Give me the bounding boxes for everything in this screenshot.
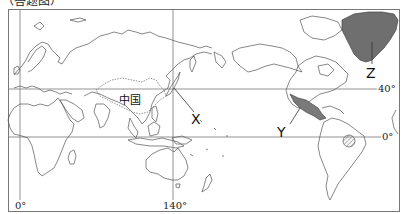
novaya-zemlya — [70, 18, 86, 22]
tasmania — [176, 184, 180, 188]
label-lon-0: 0° — [14, 200, 27, 211]
new-zealand — [202, 174, 212, 192]
label-x: X — [191, 111, 201, 127]
leader-y — [290, 108, 300, 124]
label-y: Y — [277, 124, 286, 140]
canada-islands — [300, 16, 342, 40]
caribbean — [322, 106, 344, 114]
europe-coast — [14, 30, 212, 75]
madagascar — [68, 150, 76, 164]
arabia — [60, 100, 84, 122]
world-map — [0, 0, 408, 214]
india — [94, 104, 110, 128]
greenland-region-z — [342, 12, 398, 62]
scandinavia — [28, 46, 46, 72]
philippines — [152, 106, 158, 122]
label-z: Z — [366, 65, 376, 81]
southeast-asia — [128, 118, 138, 138]
sakhalin — [190, 56, 196, 72]
alaska — [232, 44, 302, 72]
australia — [146, 148, 188, 180]
hudson-bay — [318, 64, 334, 76]
label-lat-40: 40° — [377, 83, 397, 94]
leader-x — [174, 88, 194, 112]
mediterranean — [14, 86, 72, 94]
kamchatka — [214, 52, 226, 68]
graticule — [8, 9, 384, 200]
svalbard — [34, 22, 44, 30]
borneo — [148, 122, 160, 136]
label-lat-0: 0° — [381, 131, 394, 142]
hatched-area-amazon — [343, 135, 355, 147]
label-lon-140: 140° — [162, 200, 188, 211]
south-america — [318, 118, 366, 200]
label-china: 中国 — [119, 91, 141, 107]
uk — [14, 66, 20, 74]
